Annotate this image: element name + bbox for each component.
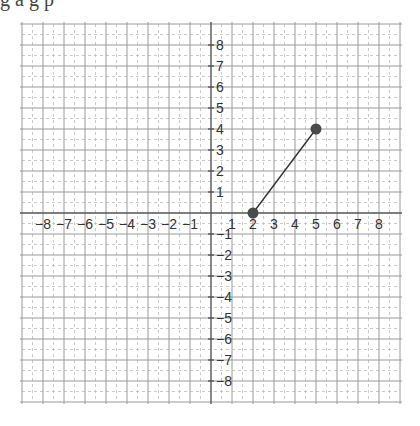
x-tick-label: −8 xyxy=(35,216,51,232)
plotted-point xyxy=(248,208,259,219)
y-tick-label: −8 xyxy=(216,373,232,389)
y-tick-label: 7 xyxy=(216,58,224,74)
y-tick-label: 6 xyxy=(216,79,224,95)
y-tick-label: −3 xyxy=(216,268,232,284)
y-tick-label: 5 xyxy=(216,100,224,116)
x-tick-label: −3 xyxy=(140,216,156,232)
x-tick-label: 3 xyxy=(270,216,278,232)
y-tick-label: −4 xyxy=(216,289,232,305)
y-tick-label: −7 xyxy=(216,352,232,368)
coordinate-grid: −8−7−6−5−4−3−2−11234567887654321−1−2−3−4… xyxy=(0,0,420,426)
x-tick-label: 8 xyxy=(375,216,383,232)
x-tick-label: −6 xyxy=(77,216,93,232)
y-tick-label: 8 xyxy=(216,37,224,53)
x-tick-label: 5 xyxy=(312,216,320,232)
y-tick-label: 1 xyxy=(216,184,224,200)
axes xyxy=(20,22,402,404)
x-tick-label: −5 xyxy=(98,216,114,232)
x-tick-label: −4 xyxy=(119,216,135,232)
x-tick-label: −1 xyxy=(182,216,198,232)
y-tick-label: −1 xyxy=(216,226,232,242)
x-tick-label: 7 xyxy=(354,216,362,232)
x-tick-label: 6 xyxy=(333,216,341,232)
x-tick-label: 4 xyxy=(291,216,299,232)
y-tick-label: 3 xyxy=(216,142,224,158)
y-tick-label: −5 xyxy=(216,310,232,326)
y-tick-label: −6 xyxy=(216,331,232,347)
y-tick-label: −2 xyxy=(216,247,232,263)
x-tick-label: −2 xyxy=(161,216,177,232)
plotted-point xyxy=(311,124,322,135)
y-tick-label: 2 xyxy=(216,163,224,179)
x-tick-label: −7 xyxy=(56,216,72,232)
y-tick-label: 4 xyxy=(216,121,224,137)
